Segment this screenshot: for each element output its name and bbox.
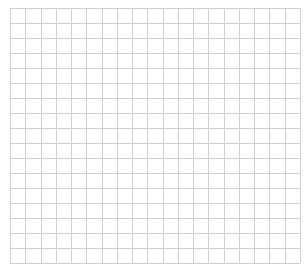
grid-canvas [0, 0, 307, 271]
